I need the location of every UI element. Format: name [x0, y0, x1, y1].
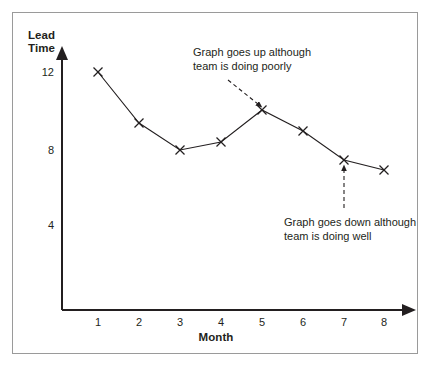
annotation-graph-up: Graph goes up although team is doing poo… — [193, 45, 343, 73]
annotation-arrow-up — [228, 80, 258, 104]
x-tick-label-8: 8 — [374, 316, 394, 328]
data-point-marker — [299, 127, 308, 136]
y-axis-title: Lead Time — [28, 29, 55, 55]
data-point-marker — [380, 166, 389, 175]
x-tick-label-7: 7 — [334, 316, 354, 328]
data-point-marker — [340, 156, 349, 165]
annotation-graph-down: Graph goes down although team is doing w… — [284, 215, 432, 243]
data-point-marker — [176, 146, 185, 155]
x-axis-title: Month — [0, 331, 432, 344]
data-point-markers — [94, 68, 389, 175]
data-point-marker — [94, 68, 103, 77]
y-tick-label-12: 12 — [30, 66, 54, 78]
data-point-marker — [135, 119, 144, 128]
y-tick-label-4: 4 — [30, 219, 54, 231]
x-tick-label-4: 4 — [211, 316, 231, 328]
data-point-marker — [258, 106, 267, 115]
x-tick-label-5: 5 — [252, 316, 272, 328]
x-tick-label-2: 2 — [129, 316, 149, 328]
x-tick-label-6: 6 — [293, 316, 313, 328]
figure-container: Lead Time Month 12 8 4 1 2 3 4 5 6 7 8 G… — [0, 0, 432, 368]
x-tick-label-1: 1 — [88, 316, 108, 328]
y-tick-label-8: 8 — [30, 144, 54, 156]
data-point-marker — [217, 138, 226, 147]
x-tick-label-3: 3 — [170, 316, 190, 328]
